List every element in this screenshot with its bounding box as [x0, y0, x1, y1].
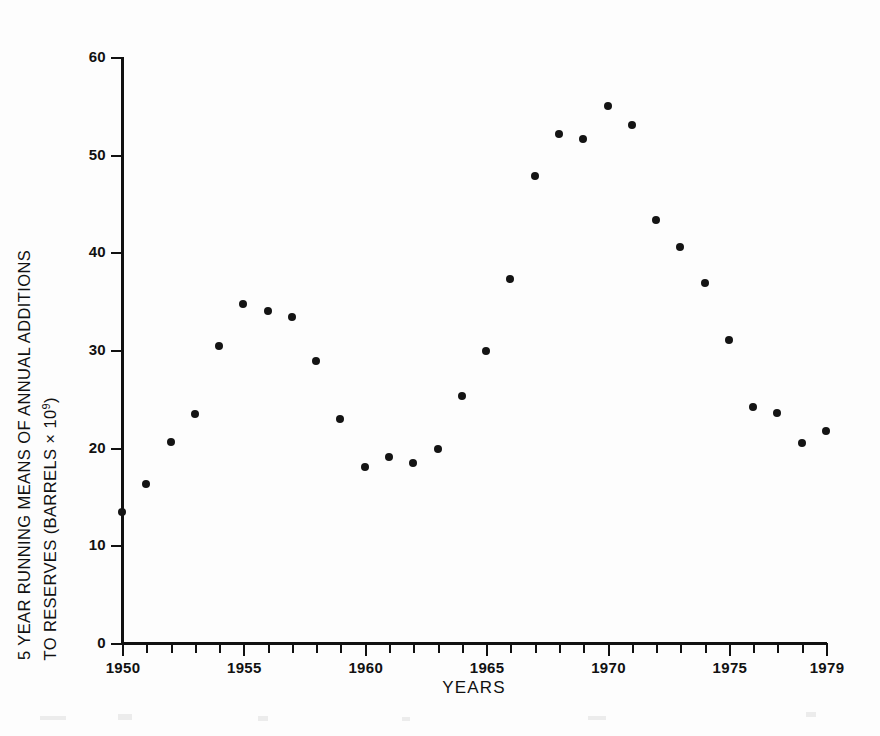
- y-axis-title-line-2-text: TO RESERVES (BARRELS × 10: [41, 409, 59, 660]
- y-axis-title-line-2-close: ): [41, 397, 59, 403]
- y-tick-10: 10: [111, 545, 122, 547]
- x-tick-1963: [438, 643, 440, 653]
- scan-artifact: [118, 714, 132, 720]
- x-tick-1965: 1965: [486, 643, 488, 656]
- data-point: [725, 336, 733, 344]
- scan-artifact: [40, 716, 66, 720]
- x-tick-1977: [777, 643, 779, 653]
- x-tick-1976: [753, 643, 755, 653]
- x-tick-1961: [389, 643, 391, 653]
- x-tick-1971: [632, 643, 634, 653]
- y-tick-label-30: 30: [89, 341, 106, 358]
- x-tick-1957: [292, 643, 294, 653]
- data-point: [579, 135, 587, 143]
- data-point: [215, 342, 223, 350]
- y-axis-title: 5 YEAR RUNNING MEANS OF ANNUAL ADDITIONS…: [0, 0, 86, 660]
- data-point: [822, 427, 830, 435]
- data-point: [531, 172, 539, 180]
- x-axis-title: YEARS: [122, 678, 826, 698]
- data-point: [701, 279, 709, 287]
- y-tick-20: 20: [111, 448, 122, 450]
- y-tick-label-10: 10: [89, 536, 106, 553]
- x-tick-1979: 1979: [826, 643, 828, 656]
- y-axis-exponent: 9: [40, 402, 52, 409]
- y-tick-50: 50: [111, 155, 122, 157]
- data-point: [628, 121, 636, 129]
- y-tick-label-20: 20: [89, 439, 106, 456]
- x-axis-line: [121, 642, 827, 645]
- data-point: [482, 347, 490, 355]
- data-point: [118, 508, 126, 516]
- y-tick-label-0: 0: [97, 634, 106, 651]
- x-tick-1962: [413, 643, 415, 653]
- data-point: [506, 275, 514, 283]
- x-tick-1968: [559, 643, 561, 653]
- y-tick-30: 30: [111, 350, 122, 352]
- data-point: [749, 403, 757, 411]
- x-tick-1964: [462, 643, 464, 653]
- data-point: [361, 463, 369, 471]
- y-tick-0: 0: [111, 643, 122, 645]
- scan-artifact: [258, 716, 268, 721]
- data-point: [264, 307, 272, 315]
- x-tick-1972: [656, 643, 658, 653]
- y-tick-label-40: 40: [89, 243, 106, 260]
- x-tick-label-1955: 1955: [227, 659, 262, 676]
- data-point: [288, 313, 296, 321]
- x-tick-1950: 1950: [122, 643, 124, 656]
- y-axis-title-line-2: TO RESERVES (BARRELS × 109): [40, 40, 61, 660]
- x-tick-label-1979: 1979: [810, 659, 845, 676]
- y-tick-label-60: 60: [89, 48, 106, 65]
- data-point: [336, 415, 344, 423]
- x-tick-1960: 1960: [365, 643, 367, 656]
- x-tick-1953: [195, 643, 197, 653]
- x-tick-label-1960: 1960: [348, 659, 383, 676]
- plot-area: 0102030405060 19501955196019651970197519…: [122, 57, 826, 643]
- data-point: [434, 445, 442, 453]
- chart-figure: 5 YEAR RUNNING MEANS OF ANNUAL ADDITIONS…: [0, 0, 880, 736]
- data-point: [409, 459, 417, 467]
- data-point: [142, 480, 150, 488]
- x-tick-1978: [802, 643, 804, 653]
- scan-artifact: [588, 716, 606, 720]
- x-tick-1973: [680, 643, 682, 653]
- x-tick-1975: 1975: [729, 643, 731, 656]
- x-tick-1952: [171, 643, 173, 653]
- x-tick-label-1975: 1975: [713, 659, 748, 676]
- x-tick-1969: [583, 643, 585, 653]
- x-tick-1959: [340, 643, 342, 653]
- x-tick-1954: [219, 643, 221, 653]
- x-tick-1951: [146, 643, 148, 653]
- data-point: [604, 102, 612, 110]
- x-tick-1955: 1955: [243, 643, 245, 656]
- data-point: [652, 216, 660, 224]
- data-point: [385, 453, 393, 461]
- data-point: [798, 439, 806, 447]
- data-point: [676, 243, 684, 251]
- data-point: [312, 357, 320, 365]
- x-tick-1970: 1970: [608, 643, 610, 656]
- x-tick-1974: [705, 643, 707, 653]
- data-point: [555, 130, 563, 138]
- y-axis-title-line-1: 5 YEAR RUNNING MEANS OF ANNUAL ADDITIONS: [15, 40, 34, 660]
- x-tick-label-1965: 1965: [470, 659, 505, 676]
- data-point: [167, 438, 175, 446]
- data-point: [458, 392, 466, 400]
- x-tick-label-1970: 1970: [591, 659, 626, 676]
- x-tick-1967: [535, 643, 537, 653]
- data-point: [773, 409, 781, 417]
- scan-artifact: [402, 717, 410, 721]
- x-tick-1956: [268, 643, 270, 653]
- data-point: [239, 300, 247, 308]
- data-point: [191, 410, 199, 418]
- y-tick-40: 40: [111, 252, 122, 254]
- x-tick-label-1950: 1950: [106, 659, 141, 676]
- scan-artifact: [806, 712, 816, 717]
- x-tick-1958: [316, 643, 318, 653]
- y-tick-60: 60: [111, 57, 122, 59]
- x-tick-1966: [510, 643, 512, 653]
- y-tick-label-50: 50: [89, 146, 106, 163]
